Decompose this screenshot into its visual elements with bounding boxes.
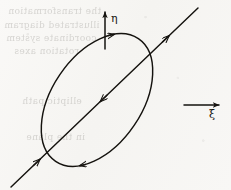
figure-container: the transformationillustrated diagramcoo…	[0, 0, 231, 190]
xi-axis-label: ξ	[209, 109, 215, 120]
trajectory-ellipse-group	[18, 13, 175, 186]
trajectory-ellipse	[18, 13, 175, 186]
ellipse-direction-arrow-upper-left	[80, 164, 86, 165]
ellipse-direction-arrow-lower-right	[109, 34, 115, 35]
diagonal-arrow-lower-left	[33, 159, 40, 165]
figure-drawing	[0, 0, 231, 190]
diagonal-arrow-center	[100, 95, 107, 101]
eta-axis-label: η	[111, 13, 118, 24]
diagonal-arrow-upper-right	[163, 36, 170, 42]
